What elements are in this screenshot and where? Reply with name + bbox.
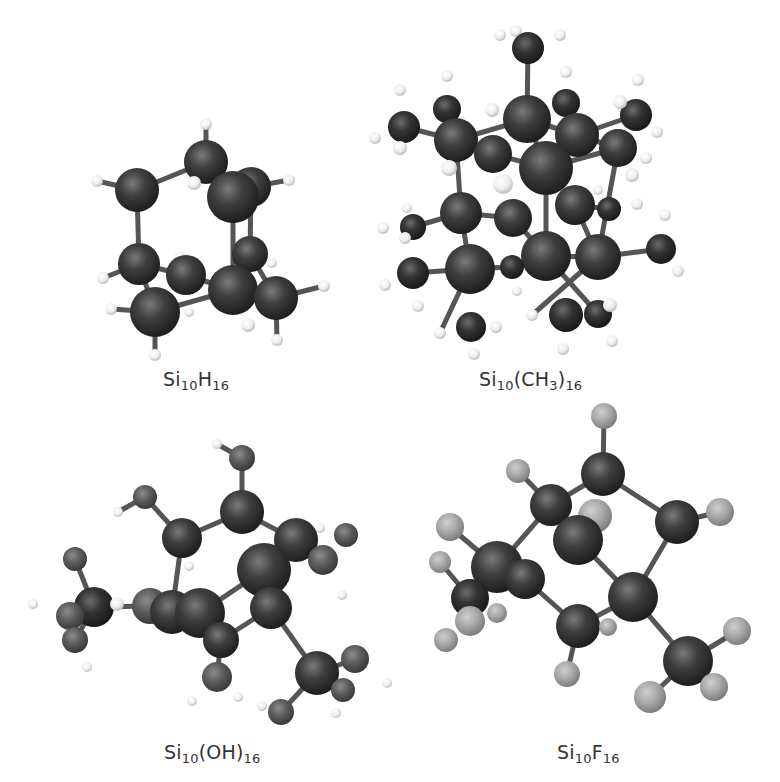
hydrogen-atom [512, 286, 522, 296]
fluorine-atom [599, 618, 617, 636]
atoms-layer [28, 25, 751, 725]
hydrogen-atom [105, 303, 117, 315]
label-subscript: 10 [182, 751, 199, 766]
label-text: (CH [514, 368, 550, 390]
fluorine-atom [429, 551, 451, 573]
silicon-atom [655, 500, 699, 544]
atoms-si10f16 [429, 403, 751, 713]
hydrogen-atom [382, 678, 392, 688]
oxygen-atom [229, 445, 255, 471]
silicon-atom [250, 587, 292, 629]
silicon-atom [575, 234, 621, 280]
hydrogen-atom [557, 343, 569, 355]
label-text: Si [479, 368, 497, 390]
silicon-atom [254, 276, 298, 320]
silicon-atom [555, 185, 595, 225]
hydrogen-atom [603, 298, 617, 312]
label-subscript: 10 [497, 378, 514, 393]
hydrogen-atom [434, 327, 446, 339]
label-text: Si [557, 741, 575, 763]
label-text: Si [164, 741, 182, 763]
silicon-atom [203, 622, 239, 658]
hydrogen-atom [554, 29, 566, 41]
fluorine-atom [506, 459, 530, 483]
carbon-atom [456, 312, 486, 342]
silicon-atom [440, 192, 482, 234]
silicon-atom [553, 515, 603, 565]
hydrogen-atom [625, 168, 639, 182]
label-si10h16: Si10H16 [163, 368, 229, 390]
carbon-atom [646, 234, 676, 264]
fluorine-atom [554, 661, 580, 687]
hydrogen-atom [606, 335, 618, 347]
atoms-si10h16 [91, 118, 330, 361]
hydrogen-atom [283, 174, 295, 186]
hydrogen-atom [393, 141, 407, 155]
hydrogen-atom [233, 692, 243, 702]
label-si10-oh-16: Si10(OH)16 [164, 741, 261, 763]
hydrogen-atom [485, 103, 499, 117]
hydrogen-atom [379, 279, 391, 291]
hydrogen-atom [331, 708, 341, 718]
silicon-atom [519, 141, 573, 195]
hydrogen-atom [468, 348, 480, 360]
fluorine-atom [455, 606, 485, 636]
silicon-atom [474, 135, 512, 173]
oxygen-atom [62, 627, 88, 653]
label-text: F [592, 741, 603, 763]
hydrogen-atom [82, 662, 92, 672]
hydrogen-atom [187, 696, 197, 706]
hydrogen-atom [394, 84, 406, 96]
hydrogen-atom [257, 701, 267, 711]
hydrogen-atom [110, 597, 124, 611]
hydrogen-atom [187, 176, 201, 190]
silicon-atom [521, 231, 571, 281]
silicon-atom [599, 129, 637, 167]
fluorine-atom [436, 513, 464, 541]
hydrogen-atom [560, 66, 572, 78]
label-subscript: 16 [244, 751, 261, 766]
oxygen-atom [63, 547, 87, 571]
hydrogen-atom [672, 265, 684, 277]
hydrogen-atom [640, 152, 652, 164]
label-text: (OH) [199, 741, 244, 763]
carbon-atom [552, 89, 580, 117]
fluorine-atom [434, 628, 458, 652]
label-subscript: 10 [181, 378, 198, 393]
silicon-atom [581, 452, 625, 496]
hydrogen-atom [113, 507, 123, 517]
oxygen-atom [56, 602, 84, 630]
fluorine-atom [706, 498, 734, 526]
label-subscript: 16 [565, 378, 582, 393]
oxygen-atom [341, 645, 369, 673]
oxygen-atom [133, 485, 157, 509]
oxygen-atom [331, 678, 355, 702]
hydrogen-atom [271, 334, 283, 346]
hydrogen-atom [377, 222, 389, 234]
silicon-atom [445, 244, 495, 294]
hydrogen-atom [369, 132, 381, 144]
hydrogen-atom [267, 258, 277, 268]
carbon-atom [597, 197, 621, 221]
silicon-atom [220, 490, 264, 534]
label-text: Si [163, 368, 181, 390]
molecule-structures-canvas [0, 0, 780, 782]
carbon-atom [500, 255, 524, 279]
hydrogen-atom [441, 160, 457, 176]
oxygen-atom [308, 545, 338, 575]
fluorine-atom [700, 673, 728, 701]
silicon-atom [118, 243, 160, 285]
fluorine-atom [487, 603, 507, 623]
hydrogen-atom [91, 175, 103, 187]
hydrogen-atom [97, 272, 109, 284]
hydrogen-atom [659, 209, 671, 221]
hydrogen-atom [441, 70, 453, 82]
fluorine-atom [591, 403, 617, 429]
molecule-figure: Si10H16 Si10(CH3)16 Si10(OH)16 Si10F16 [0, 0, 780, 782]
silicon-atom [207, 171, 259, 223]
hydrogen-atom [241, 318, 255, 332]
oxygen-atom [202, 662, 232, 692]
silicon-atom [505, 559, 545, 599]
hydrogen-atom [337, 590, 347, 600]
hydrogen-atom [631, 198, 643, 210]
